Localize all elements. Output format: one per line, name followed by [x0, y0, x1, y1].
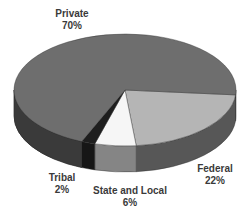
- pie-tops: [14, 34, 236, 146]
- label-federal-name: Federal: [190, 163, 240, 175]
- label-private-name: Private: [44, 8, 100, 20]
- label-state-local-name: State and Local: [90, 185, 170, 197]
- label-federal: Federal 22%: [190, 163, 240, 187]
- label-tribal: Tribal 2%: [44, 172, 80, 196]
- label-state-local: State and Local 6%: [90, 185, 170, 209]
- label-federal-pct: 22%: [190, 175, 240, 187]
- label-state-local-pct: 6%: [90, 197, 170, 209]
- label-tribal-name: Tribal: [44, 172, 80, 184]
- label-tribal-pct: 2%: [44, 184, 80, 196]
- slice-side-state-and-local: [95, 144, 136, 172]
- label-private-pct: 70%: [44, 20, 100, 32]
- slice-side-tribal: [82, 142, 95, 170]
- label-private: Private 70%: [44, 8, 100, 32]
